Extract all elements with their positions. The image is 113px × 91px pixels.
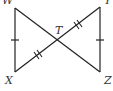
label-w: W: [2, 0, 15, 7]
label-x: X: [4, 74, 14, 87]
label-y: Y: [104, 0, 113, 7]
label-z: Z: [103, 74, 112, 87]
geometry-diagram: W Y T X Z: [0, 0, 113, 91]
